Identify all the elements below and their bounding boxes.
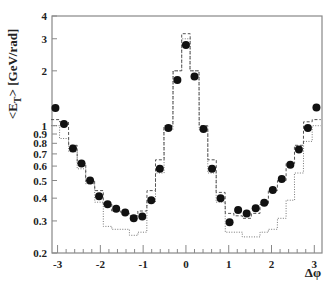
y-axis: 0.20.30.40.50.60.70.80.91234 xyxy=(33,10,57,259)
plot-frame xyxy=(52,16,322,253)
data-point xyxy=(208,165,216,173)
dashed-histogram xyxy=(51,34,321,219)
x-tick-label: -3 xyxy=(53,258,63,270)
x-tick-label: -1 xyxy=(139,258,148,270)
data-point xyxy=(304,124,312,132)
data-point xyxy=(156,165,164,173)
data-point xyxy=(95,192,103,200)
dotted-histogram xyxy=(51,39,321,237)
y-tick-label: 2 xyxy=(42,65,48,77)
data-point xyxy=(112,205,120,213)
data-point xyxy=(260,199,268,207)
dotted-histogram-line xyxy=(51,39,321,237)
data-point xyxy=(173,76,181,84)
y-tick-label: 0.7 xyxy=(33,148,47,160)
y-tick-label: 1 xyxy=(42,120,48,132)
x-tick-label: 1 xyxy=(226,258,232,270)
data-point xyxy=(147,196,155,204)
data-point xyxy=(269,186,277,194)
y-tick-label: 3 xyxy=(42,33,48,45)
data-point xyxy=(78,159,86,167)
y-tick-label: 0.2 xyxy=(33,247,47,259)
y-tick-label: 0.5 xyxy=(33,175,47,187)
data-point xyxy=(278,175,286,183)
data-point xyxy=(138,213,146,221)
data-point xyxy=(182,41,190,49)
data-point xyxy=(243,209,251,217)
data-point xyxy=(234,206,242,214)
data-point xyxy=(121,208,129,216)
data-point xyxy=(69,144,77,152)
plot-border xyxy=(52,16,322,253)
y-tick-label: 0.3 xyxy=(33,215,47,227)
data-point xyxy=(190,73,198,81)
data-point xyxy=(164,124,172,132)
x-axis-label: Δφ xyxy=(305,265,321,280)
data-point xyxy=(104,200,112,208)
data-points xyxy=(51,41,320,226)
y-tick-label: 4 xyxy=(42,10,48,22)
x-tick-label: 0 xyxy=(183,258,189,270)
x-tick-label: -2 xyxy=(96,258,106,270)
data-point xyxy=(226,218,234,226)
y-tick-label: 0.4 xyxy=(33,192,47,204)
y-axis-label: <ET> [GeV/rad] xyxy=(5,29,23,119)
data-point xyxy=(286,161,294,169)
x-axis: -3-2-10123 xyxy=(53,245,318,270)
dashed-histogram-line xyxy=(51,34,321,219)
data-point xyxy=(86,177,94,185)
chart: 0.20.30.40.50.60.70.80.91234 -3-2-10123 … xyxy=(0,0,334,292)
data-point xyxy=(199,125,207,133)
x-tick-label: 2 xyxy=(269,258,275,270)
data-point xyxy=(217,194,225,202)
data-point xyxy=(252,204,260,212)
data-point xyxy=(295,145,303,153)
data-point xyxy=(130,214,138,222)
data-point xyxy=(60,120,68,128)
y-tick-label: 0.6 xyxy=(33,160,47,172)
data-point xyxy=(51,104,59,112)
data-point xyxy=(312,103,320,111)
